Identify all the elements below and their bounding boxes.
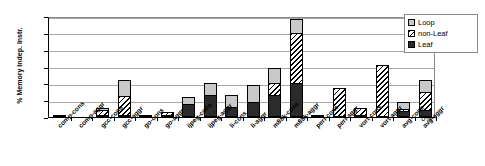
- bar-segment-nonleaf: [268, 83, 281, 95]
- legend-item-leaf: Leaf: [408, 39, 474, 50]
- gridline-60%: [49, 18, 434, 19]
- y-axis-title: % Memory Indep. Instr.: [16, 6, 23, 126]
- bar-segment-loop: [118, 80, 131, 97]
- bar-chart: % Memory Indep. Instr. 0%10%20%30%40%50%…: [0, 0, 485, 166]
- bar-segment-loop: [268, 68, 281, 83]
- gridline-40%: [49, 51, 434, 52]
- legend-label: Leaf: [418, 40, 433, 49]
- legend-label: non-Leaf: [418, 29, 448, 38]
- leaf-swatch: [408, 41, 415, 48]
- bar-segment-loop: [182, 97, 195, 104]
- legend-label: Loop: [418, 18, 435, 27]
- legend-item-nonleaf: non-Leaf: [408, 28, 474, 39]
- bar-segment-loop: [247, 85, 260, 102]
- legend-item-loop: Loop: [408, 17, 474, 28]
- gridline-50%: [49, 34, 434, 35]
- y-tick-mark: [44, 118, 48, 119]
- non-leaf-swatch: [408, 30, 415, 37]
- bar-segment-nonleaf: [290, 33, 303, 84]
- chart-legend: Loopnon-LeafLeaf: [404, 14, 478, 53]
- bar-segment-loop: [419, 80, 432, 92]
- bar-segment-loop: [204, 83, 217, 95]
- loop-swatch: [408, 19, 415, 26]
- bar-m88k-cons[interactable]: [268, 68, 281, 117]
- bar-li-aggr[interactable]: [247, 85, 260, 117]
- bar-segment-loop: [290, 19, 303, 32]
